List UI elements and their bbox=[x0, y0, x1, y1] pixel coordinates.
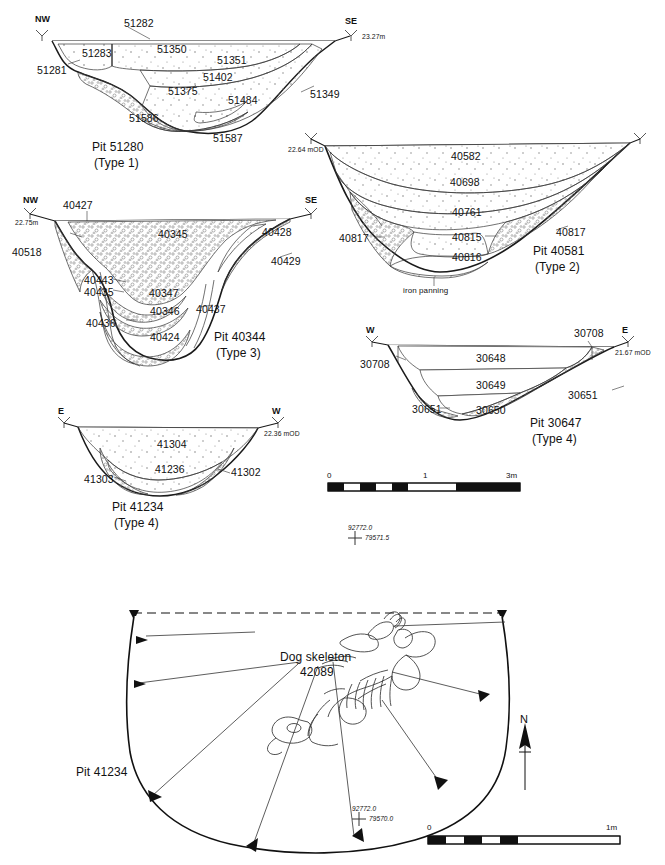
section-pit-51280 bbox=[36, 27, 357, 133]
context-40346: 40346 bbox=[150, 305, 180, 317]
context-40698: 40698 bbox=[450, 176, 480, 188]
context-51283: 51283 bbox=[82, 47, 112, 59]
context-40816: 40816 bbox=[452, 251, 482, 263]
context-51351: 51351 bbox=[217, 54, 247, 66]
grid-easting-section: 92772.0 bbox=[348, 524, 372, 531]
context-40437: 40437 bbox=[196, 303, 226, 315]
annotation-iron-panning: iron panning bbox=[403, 286, 448, 295]
context-51586: 51586 bbox=[129, 112, 159, 124]
pit-type-40581: (Type 2) bbox=[535, 260, 580, 274]
pit-label-40344: Pit 40344 bbox=[214, 330, 266, 344]
plan-feature-label: Dog skeleton bbox=[280, 650, 351, 664]
context-40345: 40345 bbox=[158, 228, 188, 240]
context-40347: 40347 bbox=[149, 287, 179, 299]
section-grid-cross bbox=[348, 531, 362, 545]
grid-easting-plan: 92772.0 bbox=[352, 805, 376, 812]
pit-label-41234-section: Pit 41234 bbox=[112, 500, 164, 514]
context-51402: 51402 bbox=[203, 71, 233, 83]
scalebar-section-start: 0 bbox=[327, 471, 332, 480]
context-40518: 40518 bbox=[12, 246, 42, 258]
context-51282: 51282 bbox=[124, 17, 154, 29]
context-30648: 30648 bbox=[476, 352, 506, 364]
compass-e-30647: E bbox=[622, 325, 628, 335]
context-40435: 40435 bbox=[84, 286, 114, 298]
pit-label-51280: Pit 51280 bbox=[92, 140, 144, 154]
context-40443: 40443 bbox=[84, 274, 114, 286]
context-51350: 51350 bbox=[157, 43, 187, 55]
context-30708-left: 30708 bbox=[360, 358, 390, 370]
datum-41234-right: 22.36 mOD bbox=[264, 430, 300, 437]
context-30650: 30650 bbox=[476, 404, 506, 416]
datum-40581-left: 22.64 mOD bbox=[288, 146, 324, 153]
context-51484: 51484 bbox=[228, 94, 258, 106]
context-40761: 40761 bbox=[452, 206, 482, 218]
compass-nw-40344: NW bbox=[23, 195, 38, 205]
context-41304: 41304 bbox=[157, 438, 187, 450]
scalebar-section-mid: 1 bbox=[423, 471, 428, 480]
compass-w-30647: W bbox=[366, 325, 375, 335]
context-40427: 40427 bbox=[63, 199, 93, 211]
context-30651-left: 30651 bbox=[412, 403, 442, 415]
context-40429: 40429 bbox=[271, 255, 301, 267]
context-30649: 30649 bbox=[476, 379, 506, 391]
section-scale-bar bbox=[328, 483, 520, 491]
pit-label-30647: Pit 30647 bbox=[530, 416, 582, 430]
grid-northing-section: 79571.5 bbox=[365, 534, 389, 541]
context-40817-left: 40817 bbox=[339, 232, 369, 244]
plan-north-label: N bbox=[520, 713, 528, 725]
datum-30647-right: 21.67 mOD bbox=[615, 349, 651, 356]
figure-canvas: NW SE 23.27m 51282 51283 51350 51351 512… bbox=[0, 0, 665, 865]
compass-e-41234: E bbox=[58, 406, 64, 416]
scalebar-plan-start: 0 bbox=[427, 823, 432, 832]
pit-label-40581: Pit 40581 bbox=[533, 244, 585, 258]
scalebar-section-end: 3m bbox=[506, 471, 517, 480]
north-arrow bbox=[519, 723, 531, 790]
context-51349: 51349 bbox=[310, 88, 340, 100]
context-40424: 40424 bbox=[150, 331, 180, 343]
pit-type-30647: (Type 4) bbox=[532, 432, 577, 446]
plan-scale-bar bbox=[428, 836, 620, 844]
context-41302: 41302 bbox=[231, 466, 261, 478]
context-41236: 41236 bbox=[155, 463, 185, 475]
compass-se-40344: SE bbox=[305, 195, 317, 205]
context-51281: 51281 bbox=[37, 64, 67, 76]
context-51375: 51375 bbox=[168, 85, 198, 97]
context-30708-right: 30708 bbox=[574, 327, 604, 339]
plan-feature-number: 42089 bbox=[300, 665, 334, 679]
datum-51280-right: 23.27m bbox=[362, 33, 385, 40]
datum-40344-left: 22.75m bbox=[15, 219, 38, 226]
context-40428: 40428 bbox=[262, 226, 292, 238]
context-40436: 40436 bbox=[86, 317, 116, 329]
context-40582: 40582 bbox=[451, 150, 481, 162]
context-30651-right: 30651 bbox=[568, 389, 598, 401]
compass-se-51280: SE bbox=[345, 16, 357, 26]
pit-type-40344: (Type 3) bbox=[216, 346, 261, 360]
context-41303: 41303 bbox=[84, 473, 114, 485]
compass-w-41234: W bbox=[272, 406, 281, 416]
context-40815: 40815 bbox=[452, 231, 482, 243]
plan-pit-label: Pit 41234 bbox=[76, 765, 128, 779]
scalebar-plan-end: 1m bbox=[606, 823, 617, 832]
context-51587: 51587 bbox=[213, 132, 243, 144]
context-40817-right: 40817 bbox=[556, 226, 586, 238]
pit-type-51280: (Type 1) bbox=[94, 156, 139, 170]
compass-nw-51280: NW bbox=[35, 14, 50, 24]
pit-type-41234-section: (Type 4) bbox=[114, 516, 159, 530]
grid-northing-plan: 79570.0 bbox=[369, 815, 393, 822]
